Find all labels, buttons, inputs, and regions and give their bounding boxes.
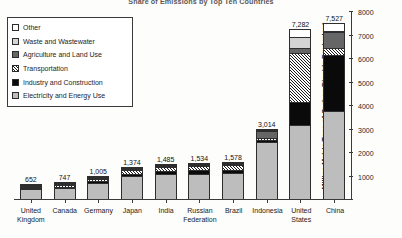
- y-axis-tick-label: 2000: [358, 150, 374, 157]
- emissions-stacked-bar-chart: Share of Emissions by Top Ten Countries …: [0, 0, 402, 238]
- bar-segment[interactable]: [21, 190, 41, 199]
- y-axis-tick-label: 7000: [358, 32, 374, 39]
- bar-segment[interactable]: [189, 175, 209, 199]
- bar-value-label: 747: [59, 174, 71, 181]
- x-axis-label: United States: [284, 206, 318, 236]
- bar-segment[interactable]: [324, 24, 344, 31]
- x-axis-label: Indonesia: [251, 206, 285, 236]
- bar-slot: 747: [48, 12, 82, 199]
- bar-value-label: 1,578: [224, 154, 242, 161]
- bar-value-label: 1,374: [123, 159, 141, 166]
- bar-segment[interactable]: [257, 132, 277, 140]
- x-axis-tick: [65, 199, 66, 203]
- bar-value-label: 7,527: [325, 15, 343, 22]
- bar-segment[interactable]: [88, 184, 108, 199]
- bar-segment[interactable]: [324, 56, 344, 112]
- stacked-bar[interactable]: 747: [54, 182, 76, 199]
- bar-segment[interactable]: [324, 49, 344, 56]
- x-axis-tick: [98, 199, 99, 203]
- x-axis-label: Brazil: [217, 206, 251, 236]
- x-axis-label: India: [149, 206, 183, 236]
- stacked-bar[interactable]: 1,578: [222, 162, 244, 199]
- y-axis-tick-label: 4000: [358, 103, 374, 110]
- bar-slot: 1,485: [149, 12, 183, 199]
- bar-slot: 1,374: [115, 12, 149, 199]
- x-axis-labels: United KingdomCanadaGermanyJapanIndiaRus…: [14, 206, 352, 236]
- bar-segment[interactable]: [290, 30, 310, 39]
- bar-segment[interactable]: [257, 143, 277, 199]
- bar-slot: 1,578: [216, 12, 250, 199]
- bar-segment[interactable]: [156, 175, 176, 199]
- x-axis-tick: [199, 199, 200, 203]
- bar-slot: 3,014: [250, 12, 284, 199]
- stacked-bar[interactable]: 1,485: [155, 164, 177, 199]
- stacked-bar[interactable]: 7,282: [289, 29, 311, 199]
- bar-segment[interactable]: [290, 126, 310, 199]
- bar-value-label: 1,534: [191, 155, 209, 162]
- y-axis-tick-label: 6000: [358, 56, 374, 63]
- y-axis-tick-label: 8000: [358, 9, 374, 16]
- bar-segment[interactable]: [324, 112, 344, 199]
- y-axis-line: [351, 12, 352, 200]
- stacked-bar[interactable]: 1,534: [188, 163, 210, 199]
- bar-value-label: 1,485: [157, 156, 175, 163]
- y-axis-tick-label: 1000: [358, 173, 374, 180]
- bar-segment[interactable]: [223, 174, 243, 199]
- y-axis-tick: [349, 199, 353, 200]
- y-axis-tick-label: 5000: [358, 79, 374, 86]
- bar-slot: 1,534: [183, 12, 217, 199]
- bar-segment[interactable]: [324, 33, 344, 49]
- x-axis-tick: [334, 199, 335, 203]
- bar-slot: 652: [14, 12, 48, 199]
- stacked-bar[interactable]: 7,527: [323, 23, 345, 199]
- bar-value-label: 3,014: [258, 121, 276, 128]
- bar-value-label: 652: [25, 176, 37, 183]
- bar-segment[interactable]: [55, 189, 75, 199]
- x-axis-tick: [166, 199, 167, 203]
- chart-title: Share of Emissions by Top Ten Countries: [0, 0, 402, 6]
- bar-segment[interactable]: [290, 38, 310, 49]
- stacked-bar[interactable]: 1,374: [121, 167, 143, 199]
- bar-value-label: 7,282: [292, 21, 310, 28]
- plot-area: 10002000300040005000600070008000 Million…: [14, 12, 352, 200]
- bar-slot: 7,282: [284, 12, 318, 199]
- x-axis-tick: [267, 199, 268, 203]
- bar-segment[interactable]: [290, 103, 310, 126]
- x-axis-tick: [132, 199, 133, 203]
- stacked-bar[interactable]: 1,005: [87, 176, 109, 199]
- bar-segment[interactable]: [122, 177, 142, 199]
- x-axis-tick: [233, 199, 234, 203]
- x-axis-label: Japan: [115, 206, 149, 236]
- bar-slot: 1,005: [81, 12, 115, 199]
- bar-segment[interactable]: [290, 54, 310, 103]
- x-axis-label: Russian Federation: [183, 206, 217, 236]
- stacked-bar[interactable]: 3,014: [256, 129, 278, 199]
- x-axis-label: China: [318, 206, 352, 236]
- stacked-bar[interactable]: 652: [20, 184, 42, 199]
- bar-slot: 7,527: [317, 12, 351, 199]
- y-axis-tick-label: 3000: [358, 126, 374, 133]
- x-axis-label: United Kingdom: [14, 206, 48, 236]
- bar-group: 6527471,0051,3741,4851,5341,5783,0147,28…: [14, 12, 351, 199]
- bar-value-label: 1,005: [89, 168, 107, 175]
- x-axis-tick: [31, 199, 32, 203]
- x-axis-label: Canada: [48, 206, 82, 236]
- x-axis-tick: [300, 199, 301, 203]
- x-axis-label: Germany: [82, 206, 116, 236]
